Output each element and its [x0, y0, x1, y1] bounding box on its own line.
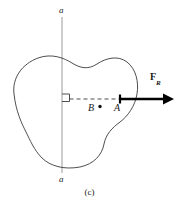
figure-caption: (c) [0, 188, 179, 197]
point-label-a: A [114, 103, 120, 113]
force-arrow-head [163, 94, 174, 105]
point-b-marker [98, 105, 101, 108]
right-angle-square-icon [62, 94, 70, 102]
point-label-b: B [88, 103, 94, 113]
force-label-fr: FR [150, 72, 161, 85]
figure-container: a a B A FR (c) [0, 0, 179, 203]
force-label-subscript: R [156, 79, 161, 87]
axis-label-bottom: a [59, 175, 64, 184]
axis-label-top: a [59, 6, 64, 15]
